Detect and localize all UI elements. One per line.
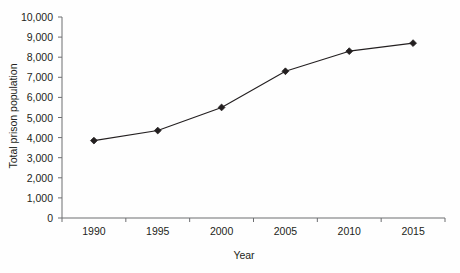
x-axis-tick-label: 2005	[274, 226, 297, 237]
x-axis-tick-label: 1990	[82, 226, 105, 237]
data-point-marker	[91, 137, 98, 144]
y-axis-title: Total prison population	[2, 0, 24, 232]
x-axis-tick-label: 1995	[146, 226, 169, 237]
y-axis-title-text: Total prison population	[7, 63, 19, 168]
data-point-marker	[282, 68, 289, 75]
data-point-marker	[154, 127, 161, 134]
x-axis-tick-label: 2010	[338, 226, 361, 237]
x-axis-tick-label: 2000	[210, 226, 233, 237]
x-axis-title-text: Year	[233, 249, 254, 261]
line-chart: 01,0002,0003,0004,0005,0006,0007,0008,00…	[0, 0, 460, 273]
data-point-marker	[218, 104, 225, 111]
data-point-marker	[410, 40, 417, 47]
data-point-marker	[346, 48, 353, 55]
x-axis-tick-label: 2015	[401, 226, 424, 237]
x-axis-title: Year	[0, 249, 460, 261]
data-series-line	[94, 43, 413, 140]
